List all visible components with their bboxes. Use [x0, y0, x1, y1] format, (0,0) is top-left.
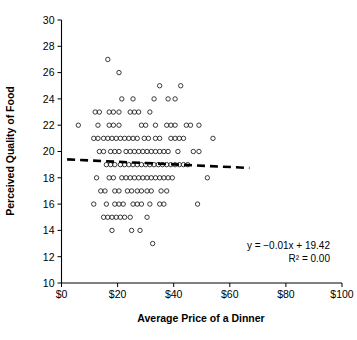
data-point: [97, 110, 101, 114]
data-point: [162, 149, 166, 153]
data-point: [136, 110, 140, 114]
y-tick-label: 28: [43, 40, 55, 52]
data-point: [159, 189, 163, 193]
data-point: [107, 110, 111, 114]
data-point: [117, 110, 121, 114]
data-point: [135, 202, 139, 206]
data-point: [113, 189, 117, 193]
y-axis-ticks: 1012141618202224262830: [43, 14, 62, 289]
data-point: [142, 136, 146, 140]
y-tick-label: 12: [43, 251, 55, 263]
data-point: [184, 123, 188, 127]
data-point: [113, 149, 117, 153]
data-point: [153, 176, 157, 180]
data-point: [128, 149, 132, 153]
data-point: [111, 110, 115, 114]
data-point: [132, 110, 136, 114]
data-point: [136, 149, 140, 153]
data-point: [101, 149, 105, 153]
data-point: [129, 228, 133, 232]
data-point: [124, 176, 128, 180]
data-point: [148, 110, 152, 114]
data-point: [145, 149, 149, 153]
data-point: [99, 189, 103, 193]
data-point: [153, 123, 157, 127]
data-point: [149, 189, 153, 193]
x-tick-label: $0: [56, 288, 68, 300]
data-point: [169, 123, 173, 127]
data-point: [113, 202, 117, 206]
data-point: [148, 202, 152, 206]
data-point: [122, 136, 126, 140]
data-point: [181, 136, 185, 140]
data-point: [146, 136, 150, 140]
data-point: [104, 202, 108, 206]
y-tick-label: 30: [43, 14, 55, 26]
data-point: [166, 149, 170, 153]
data-point: [93, 110, 97, 114]
data-point: [117, 202, 121, 206]
data-point: [114, 215, 118, 219]
data-point: [138, 228, 142, 232]
data-point: [162, 202, 166, 206]
data-point: [197, 149, 201, 153]
data-point: [128, 110, 132, 114]
data-point: [157, 202, 161, 206]
x-tick-label: $80: [277, 288, 295, 300]
y-tick-label: 22: [43, 119, 55, 131]
data-point: [177, 136, 181, 140]
data-point: [104, 162, 108, 166]
data-point: [157, 149, 161, 153]
data-point: [106, 57, 110, 61]
data-point: [157, 84, 161, 88]
x-tick-label: $100: [330, 288, 354, 300]
data-point: [188, 123, 192, 127]
data-point: [127, 162, 131, 166]
data-point: [149, 176, 153, 180]
data-point: [195, 202, 199, 206]
data-point: [170, 176, 174, 180]
data-point: [131, 136, 135, 140]
data-point: [164, 123, 168, 127]
data-point: [110, 136, 114, 140]
data-point: [135, 189, 139, 193]
data-point: [166, 176, 170, 180]
data-point: [157, 136, 161, 140]
y-tick-label: 24: [43, 93, 55, 105]
data-point: [120, 97, 124, 101]
data-point: [157, 176, 161, 180]
data-point: [176, 149, 180, 153]
data-point: [101, 215, 105, 219]
data-point: [136, 176, 140, 180]
data-point: [129, 189, 133, 193]
data-point: [117, 123, 121, 127]
data-point: [97, 149, 101, 153]
data-points-layer: [76, 57, 215, 246]
data-point: [131, 202, 135, 206]
data-point: [141, 149, 145, 153]
data-point: [96, 123, 100, 127]
data-point: [139, 202, 143, 206]
data-point: [145, 215, 149, 219]
data-point: [108, 149, 112, 153]
data-point: [127, 136, 131, 140]
data-point: [111, 123, 115, 127]
scatter-chart-figure: 1012141618202224262830 $0$20$40$60$80$10…: [0, 0, 357, 340]
data-point: [107, 123, 111, 127]
data-point: [108, 162, 112, 166]
data-point: [94, 176, 98, 180]
r-squared-text: R² = 0.00: [289, 253, 331, 264]
y-tick-label: 16: [43, 198, 55, 210]
data-point: [114, 136, 118, 140]
data-point: [169, 136, 173, 140]
data-point: [113, 162, 117, 166]
data-point: [110, 228, 114, 232]
x-tick-label: $40: [165, 288, 183, 300]
data-point: [211, 136, 215, 140]
data-point: [131, 97, 135, 101]
data-point: [122, 215, 126, 219]
data-point: [164, 189, 168, 193]
data-point: [153, 149, 157, 153]
data-point: [132, 176, 136, 180]
x-tick-label: $60: [221, 288, 239, 300]
